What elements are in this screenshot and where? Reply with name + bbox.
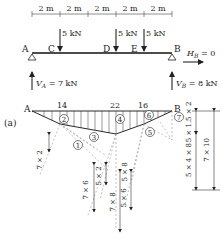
beam-moment-diagram: 2 m 2 m 2 m 2 m 2 m A C D E B 5 kN 5 kN …	[0, 0, 224, 240]
load-label: 5 kN	[118, 29, 137, 38]
point-E-label: E	[131, 44, 138, 54]
reaction-A-label: VA = 7 kN	[36, 79, 77, 89]
region-label: 3	[92, 134, 96, 142]
region-label: 7	[177, 114, 181, 122]
point-C-label: C	[48, 44, 55, 54]
point-A-label: A	[21, 44, 29, 54]
dim-label: 7 × 6	[82, 180, 90, 200]
point-A-label: A	[23, 104, 31, 114]
region-label: 5	[148, 129, 152, 137]
figure-label: (a)	[4, 118, 16, 128]
span-label: 2 m	[150, 4, 166, 13]
span-dimensions: 2 m 2 m 2 m 2 m 2 m	[32, 4, 172, 17]
region-label: 4	[118, 116, 123, 124]
dim-label: 7 × 2	[36, 150, 44, 169]
span-label: 2 m	[122, 4, 138, 13]
dim-label: 5 × 6	[120, 188, 128, 208]
point-B-label: B	[174, 44, 181, 54]
reaction-B-label: VB = 8 kN	[176, 79, 217, 89]
dim-label: 7 × 8	[109, 192, 117, 211]
pin-support-A	[28, 54, 36, 60]
roller-support-B	[168, 54, 176, 60]
point-D-label: D	[103, 44, 110, 54]
region-label: 1	[76, 142, 80, 150]
region-label: 2	[62, 116, 66, 124]
horizontal-reaction-label: HB = 0	[186, 49, 215, 59]
dim-label: 7 × 10	[203, 138, 211, 162]
dim-label: 5 × 2	[95, 166, 103, 185]
load-label: 5 kN	[146, 29, 165, 38]
dim-label: 5 × 1.5 × 2	[185, 102, 193, 143]
span-label: 2 m	[66, 4, 82, 13]
region-label: 6	[147, 112, 152, 120]
dim-label: 5 × 4 × 8	[185, 143, 193, 177]
load-label: 5 kN	[62, 29, 81, 38]
moment-value: 22	[110, 101, 120, 110]
point-loads: 5 kN 5 kN 5 kN	[60, 29, 165, 51]
span-label: 2 m	[38, 4, 54, 13]
moment-value: 16	[138, 101, 148, 110]
dim-label: 5 × 8	[121, 162, 129, 181]
moment-value: 14	[57, 101, 67, 110]
moment-diagram: A B (a) 14 22 16	[4, 101, 220, 232]
span-label: 2 m	[94, 4, 110, 13]
